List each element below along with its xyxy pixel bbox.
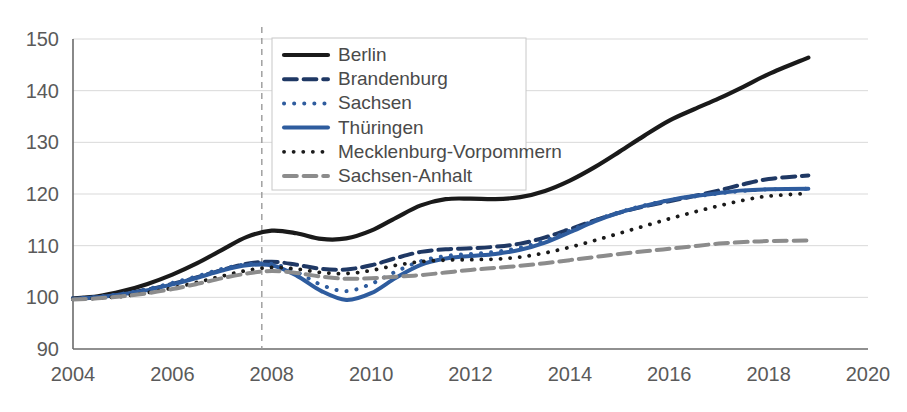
chart-canvas: 90100110120130140150 2004200620082010201… bbox=[0, 0, 907, 412]
y-axis-tick-labels: 90100110120130140150 bbox=[26, 28, 59, 360]
y-tick-label-130: 130 bbox=[26, 131, 59, 153]
legend-label-brandenburg: Brandenburg bbox=[338, 68, 448, 89]
legend-label-sachsen-anhalt: Sachsen-Anhalt bbox=[338, 165, 473, 186]
x-tick-label-2012: 2012 bbox=[448, 363, 493, 385]
x-tick-label-2010: 2010 bbox=[349, 363, 394, 385]
legend-label-th-ringen: Thüringen bbox=[338, 117, 424, 138]
y-tick-label-120: 120 bbox=[26, 183, 59, 205]
legend-label-sachsen: Sachsen bbox=[338, 92, 412, 113]
legend-label-mecklenburg-vorpommern: Mecklenburg-Vorpommern bbox=[338, 141, 562, 162]
x-tick-label-2016: 2016 bbox=[647, 363, 692, 385]
y-tick-label-90: 90 bbox=[37, 338, 59, 360]
y-tick-label-150: 150 bbox=[26, 28, 59, 50]
legend: BerlinBrandenburgSachsenThüringenMecklen… bbox=[272, 38, 562, 190]
x-tick-label-2004: 2004 bbox=[51, 363, 96, 385]
x-tick-label-2018: 2018 bbox=[746, 363, 791, 385]
legend-label-berlin: Berlin bbox=[338, 44, 387, 65]
x-tick-label-2008: 2008 bbox=[250, 363, 295, 385]
x-axis-tick-labels: 200420062008201020122014201620182020 bbox=[51, 363, 891, 385]
y-tick-label-100: 100 bbox=[26, 286, 59, 308]
y-tick-label-140: 140 bbox=[26, 80, 59, 102]
y-tick-label-110: 110 bbox=[27, 235, 59, 257]
x-tick-label-2014: 2014 bbox=[548, 363, 593, 385]
x-tick-label-2020: 2020 bbox=[846, 363, 891, 385]
x-tick-label-2006: 2006 bbox=[150, 363, 195, 385]
line-chart: 90100110120130140150 2004200620082010201… bbox=[0, 0, 907, 412]
